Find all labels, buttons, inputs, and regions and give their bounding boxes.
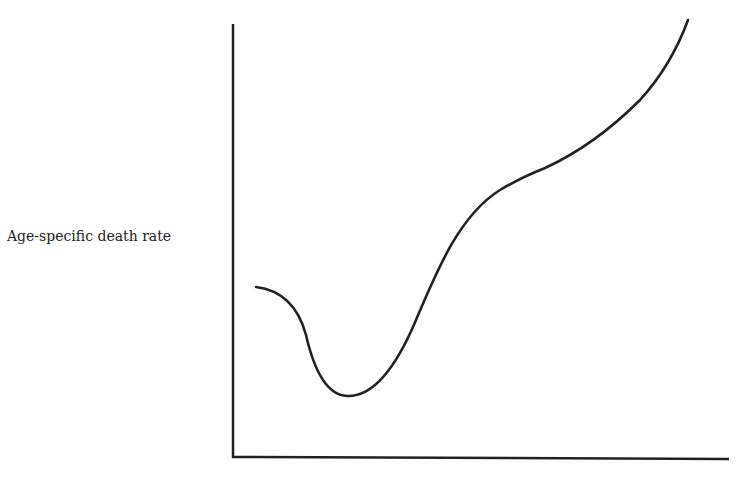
- x-axis: [232, 457, 729, 459]
- chart-canvas: [0, 0, 756, 490]
- death-rate-curve: [256, 20, 688, 396]
